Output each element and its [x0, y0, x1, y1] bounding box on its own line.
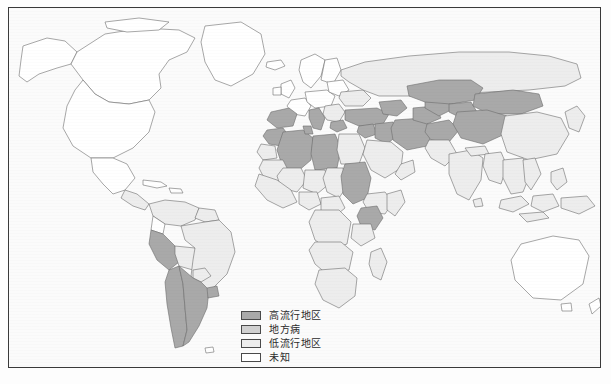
map-frame: .c { stroke: #6d6d6d; stroke-width: 0.6;… — [8, 7, 601, 368]
legend-swatch-endemic — [241, 325, 261, 334]
legend-swatch-high-prevalence — [241, 311, 261, 320]
legend-item-low-prevalence: 低流行地区 — [241, 337, 322, 350]
island-tasmania — [561, 303, 572, 311]
country-ireland — [273, 87, 281, 95]
legend: 高流行地区 地方病 低流行地区 未知 — [241, 309, 322, 365]
figure-container: .c { stroke: #6d6d6d; stroke-width: 0.6;… — [0, 0, 611, 384]
island-falklands — [205, 347, 214, 353]
island-hispaniola — [169, 188, 183, 193]
legend-label-high-prevalence: 高流行地区 — [269, 310, 322, 321]
legend-label-endemic: 地方病 — [269, 324, 301, 335]
legend-swatch-unknown — [241, 353, 261, 362]
country-libya — [311, 134, 341, 170]
country-tunisia — [303, 126, 313, 134]
legend-label-low-prevalence: 低流行地区 — [269, 338, 322, 349]
country-sri-lanka — [473, 198, 483, 207]
legend-item-unknown: 未知 — [241, 351, 322, 364]
country-egypt — [337, 134, 365, 164]
country-uruguay — [207, 286, 219, 298]
legend-swatch-low-prevalence — [241, 339, 261, 348]
legend-item-endemic: 地方病 — [241, 323, 322, 336]
legend-item-high-prevalence: 高流行地区 — [241, 309, 322, 322]
legend-label-unknown: 未知 — [269, 352, 290, 363]
